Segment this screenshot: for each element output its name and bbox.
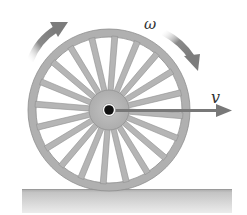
wheel-spoke — [100, 128, 110, 184]
ground — [22, 189, 232, 213]
rolling-wheel-diagram: ω v — [0, 0, 247, 215]
axle — [103, 104, 116, 117]
velocity-label: v — [211, 88, 220, 107]
wheel-spoke — [35, 101, 91, 111]
omega-label: ω — [144, 15, 156, 33]
wheel-spoke — [108, 36, 118, 92]
